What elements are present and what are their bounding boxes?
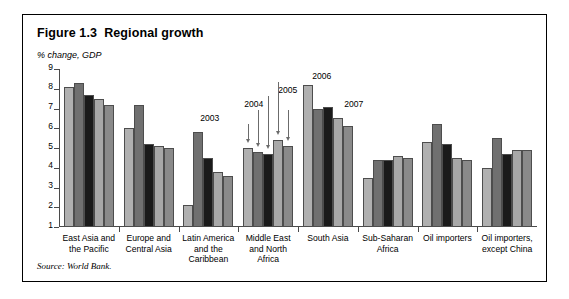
bar-2007[interactable] <box>462 160 472 227</box>
bar-2007[interactable] <box>522 150 532 227</box>
bar-2003[interactable] <box>363 178 373 227</box>
bar-2005[interactable] <box>323 107 333 227</box>
annotation-leader-line <box>248 124 249 139</box>
x-axis-group-tick <box>238 227 239 232</box>
annotation-label-2004: 2004 <box>244 99 263 109</box>
bar-2005[interactable] <box>502 154 512 227</box>
bar-2007[interactable] <box>283 146 293 227</box>
x-axis-group-tick <box>477 227 478 232</box>
bar-group-bars <box>59 69 119 227</box>
y-axis-tick-label: 3 <box>48 181 53 190</box>
bar-2007[interactable] <box>164 148 174 227</box>
bar-group-bars <box>418 69 478 227</box>
category-label: South Asia <box>294 233 362 244</box>
category-label: Oil importers <box>414 233 482 244</box>
bar-2006[interactable] <box>94 99 104 227</box>
bar-2004[interactable] <box>432 124 442 227</box>
bar-2003[interactable] <box>64 87 74 227</box>
annotation-leader-line <box>278 82 279 131</box>
y-axis-tick-label: 1 <box>48 221 53 230</box>
annotation-arrowhead <box>266 145 270 149</box>
bar-group-bars <box>358 69 418 227</box>
bar-2005[interactable] <box>203 158 213 227</box>
bar-2003[interactable] <box>183 205 193 227</box>
bar-2006[interactable] <box>452 158 462 227</box>
category-label: Europe and Central Asia <box>115 233 183 254</box>
bar-2004[interactable] <box>253 152 263 227</box>
bar-2007[interactable] <box>223 176 233 227</box>
y-axis-tick-label: 4 <box>48 161 53 170</box>
y-axis-tick-label: 8 <box>48 82 53 91</box>
y-axis-tick-label: 5 <box>48 142 53 151</box>
annotation-label-2006: 2006 <box>312 71 331 81</box>
x-axis-group-tick <box>418 227 419 232</box>
annotation-label-2007: 2007 <box>344 99 363 109</box>
bar-2003[interactable] <box>482 168 492 227</box>
y-axis-tick-label: 7 <box>48 102 53 111</box>
bar-2007[interactable] <box>403 158 413 227</box>
x-axis-group-tick <box>358 227 359 232</box>
y-axis-tick-mark <box>54 227 59 228</box>
bar-2006[interactable] <box>333 118 343 227</box>
bar-2004[interactable] <box>373 160 383 227</box>
annotation-leader-line <box>268 96 269 145</box>
bar-2004[interactable] <box>134 105 144 227</box>
bar-2007[interactable] <box>343 126 353 227</box>
bar-group <box>59 69 119 227</box>
annotation-leader-line <box>258 110 259 143</box>
bar-group <box>298 69 358 227</box>
bar-group-bars <box>179 69 239 227</box>
bar-2005[interactable] <box>383 160 393 227</box>
bar-2006[interactable] <box>213 172 223 227</box>
bar-group <box>179 69 239 227</box>
category-label: Sub-Saharan Africa <box>354 233 422 254</box>
bar-2006[interactable] <box>273 140 283 227</box>
category-label: Latin America and the Caribbean <box>175 233 243 265</box>
annotation-arrowhead <box>276 131 280 135</box>
x-axis-group-tick <box>298 227 299 232</box>
category-label: Oil importers, except China <box>473 233 541 254</box>
annotation-arrowhead <box>256 143 260 147</box>
figure-title: Figure 1.3 Regional growth <box>37 26 204 40</box>
y-axis-tick-label: 2 <box>48 201 53 210</box>
bar-2005[interactable] <box>263 154 273 227</box>
bar-2004[interactable] <box>193 132 203 227</box>
bar-2005[interactable] <box>84 95 94 227</box>
bar-2004[interactable] <box>74 83 84 227</box>
source-note: Source: World Bank. <box>37 261 112 271</box>
x-axis-group-tick <box>119 227 120 232</box>
category-label: Middle East and North Africa <box>234 233 302 265</box>
annotation-arrowhead <box>246 139 250 143</box>
y-axis-unit-label: % change, GDP <box>37 50 102 60</box>
annotation-arrowhead <box>286 137 290 141</box>
bar-2006[interactable] <box>393 156 403 227</box>
bar-2004[interactable] <box>313 109 323 228</box>
bar-2003[interactable] <box>243 148 253 227</box>
bar-group <box>358 69 418 227</box>
bar-2003[interactable] <box>303 85 313 227</box>
annotation-label-2005: 2005 <box>278 85 297 95</box>
bar-group <box>477 69 537 227</box>
bar-2007[interactable] <box>104 105 114 227</box>
bar-group-bars <box>477 69 537 227</box>
bar-group-bars <box>298 69 358 227</box>
category-label: East Asia and the Pacific <box>55 233 123 254</box>
bar-group <box>119 69 179 227</box>
x-axis-group-tick <box>179 227 180 232</box>
bar-2004[interactable] <box>492 138 502 227</box>
bar-2005[interactable] <box>442 144 452 227</box>
bar-group-bars <box>119 69 179 227</box>
bar-group <box>418 69 478 227</box>
bar-2003[interactable] <box>124 128 134 227</box>
plot-area: 123456789 20032004200520062007 <box>59 69 537 227</box>
bar-2005[interactable] <box>144 144 154 227</box>
bar-2006[interactable] <box>154 146 164 227</box>
y-axis-tick-label: 6 <box>48 122 53 131</box>
figure-panel: Figure 1.3 Regional growth % change, GDP… <box>22 14 547 282</box>
y-axis-tick-label: 9 <box>48 63 53 72</box>
annotation-leader-line <box>288 110 289 137</box>
annotation-label-2003: 2003 <box>200 113 219 123</box>
bar-2006[interactable] <box>512 150 522 227</box>
bar-2003[interactable] <box>422 142 432 227</box>
